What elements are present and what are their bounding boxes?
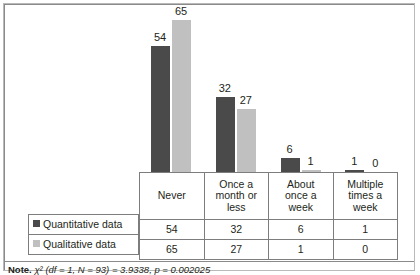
table-row: 65 27 1 0	[140, 240, 398, 260]
table-row: 54 32 6 1	[140, 220, 398, 240]
legend-row-qualitative: Qualitative data	[29, 235, 139, 255]
legend-label-qualitative: Qualitative data	[43, 238, 116, 250]
bar-group-never: 54 65	[139, 8, 204, 172]
bar-label-quantitative-once-a-month-or-less: 32	[208, 83, 242, 94]
figure-note: Note. χ² (df = 1, N = 93) = 3.9338, p = …	[8, 264, 412, 275]
cell-qualitative-about-once-a-week: 1	[269, 240, 334, 260]
legend: Quantitative data Qualitative data	[28, 214, 139, 255]
column-header-about-once-a-week: About once a week	[269, 173, 334, 220]
cell-qualitative-once-a-month-or-less: 27	[204, 240, 269, 260]
bar-group-multiple-times-a-week: 1 0	[333, 8, 398, 172]
column-header-once-a-month-or-less: Once a month or less	[204, 173, 269, 220]
column-header-multiple-times-a-week-line3: week	[353, 201, 378, 213]
bar-qualitative-never	[172, 20, 191, 172]
cell-quantitative-about-once-a-week: 6	[269, 220, 334, 240]
legend-label-quantitative: Quantitative data	[43, 218, 122, 230]
bar-chart-figure: 54 65 32 27 6 1 1 0 Never	[0, 0, 420, 275]
bar-label-quantitative-about-once-a-week: 6	[273, 144, 307, 155]
table-header-row: Never Once a month or less About once a …	[140, 173, 398, 220]
bar-group-once-a-month-or-less: 32 27	[204, 8, 269, 172]
note-text: χ² (df = 1, N = 93) = 3.9338, p = 0.0020…	[32, 264, 210, 275]
data-table: Never Once a month or less About once a …	[139, 172, 398, 260]
legend-cell-quantitative: Quantitative data	[29, 215, 139, 235]
bar-label-qualitative-multiple-times-a-week: 0	[358, 158, 392, 169]
cell-qualitative-multiple-times-a-week: 0	[333, 240, 398, 260]
dark-square-icon	[33, 220, 40, 227]
column-header-never-line1: Never	[158, 189, 186, 201]
bar-label-qualitative-once-a-month-or-less: 27	[229, 95, 263, 106]
light-square-icon	[33, 240, 40, 247]
column-header-once-a-month-or-less-line3: less	[227, 201, 246, 213]
bar-label-qualitative-about-once-a-week: 1	[294, 156, 328, 167]
bar-group-about-once-a-week: 6 1	[269, 8, 334, 172]
legend-cell-qualitative: Qualitative data	[29, 235, 139, 255]
note-divider	[4, 261, 414, 262]
column-header-once-a-month-or-less-line2: month or	[216, 189, 257, 201]
cell-qualitative-never: 65	[140, 240, 205, 260]
column-header-multiple-times-a-week-line1: Multiple	[347, 178, 383, 190]
column-header-about-once-a-week-line1: About	[287, 178, 314, 190]
column-header-about-once-a-week-line3: week	[288, 201, 313, 213]
bar-label-qualitative-never: 65	[164, 6, 198, 17]
legend-row-quantitative: Quantitative data	[29, 215, 139, 235]
plot-area: 54 65 32 27 6 1 1 0	[139, 8, 398, 172]
cell-quantitative-once-a-month-or-less: 32	[204, 220, 269, 240]
bar-qualitative-once-a-month-or-less	[237, 109, 256, 172]
column-header-never: Never	[140, 173, 205, 220]
column-header-multiple-times-a-week: Multiple times a week	[333, 173, 398, 220]
column-header-about-once-a-week-line2: once a	[285, 189, 317, 201]
cell-quantitative-multiple-times-a-week: 1	[333, 220, 398, 240]
column-header-multiple-times-a-week-line2: times a	[348, 189, 382, 201]
bar-label-quantitative-never: 54	[143, 32, 177, 43]
bar-quantitative-never	[151, 46, 170, 173]
cell-quantitative-never: 54	[140, 220, 205, 240]
bar-quantitative-once-a-month-or-less	[216, 97, 235, 172]
note-label: Note.	[8, 264, 32, 275]
column-header-once-a-month-or-less-line1: Once a	[219, 178, 253, 190]
